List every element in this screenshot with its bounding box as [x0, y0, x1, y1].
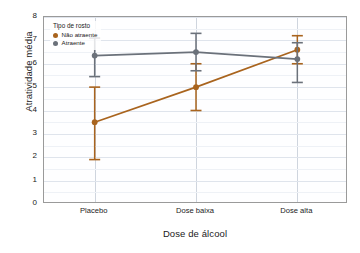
error-bar	[292, 43, 303, 83]
data-point	[92, 119, 98, 125]
plot-area: Tipo de rosto Não atraente Atraente	[43, 16, 347, 203]
data-point	[193, 49, 199, 55]
x-tick-label: Dose baixa	[176, 206, 214, 215]
legend: Tipo de rosto Não atraente Atraente	[50, 21, 101, 50]
y-tick-label: 1	[11, 176, 37, 184]
data-point	[294, 56, 300, 62]
y-tick-label: 5	[11, 82, 37, 90]
legend-swatch-nao-atraente	[53, 33, 58, 38]
x-axis-label: Dose de álcool	[43, 228, 347, 239]
legend-label-nao-atraente: Não atraente	[62, 32, 98, 39]
legend-swatch-atraente	[53, 41, 58, 46]
legend-title: Tipo de rosto	[53, 23, 97, 30]
chart-figure: Atratividade média 012345678 Tipo de ros…	[0, 0, 360, 253]
data-point	[193, 84, 199, 90]
y-tick-label: 2	[11, 152, 37, 160]
y-tick-label: 0	[11, 199, 37, 207]
y-axis-ticks: 012345678	[11, 0, 37, 253]
legend-label-atraente: Atraente	[62, 40, 85, 47]
y-tick-label: 7	[11, 35, 37, 43]
y-tick-label: 3	[11, 129, 37, 137]
data-point	[92, 53, 98, 59]
y-tick-label: 6	[11, 59, 37, 67]
x-tick-label: Placebo	[80, 206, 107, 215]
legend-item-atraente[interactable]: Atraente	[53, 40, 97, 47]
legend-item-nao-atraente[interactable]: Não atraente	[53, 32, 97, 39]
y-tick-label: 4	[11, 106, 37, 114]
y-tick-label: 8	[11, 12, 37, 20]
x-tick-label: Dose alta	[280, 206, 312, 215]
